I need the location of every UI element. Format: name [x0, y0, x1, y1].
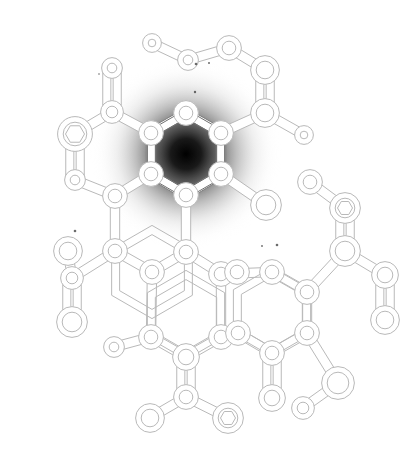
- atom-node-8: [140, 260, 165, 285]
- atom-inner-ring-icon: [231, 326, 245, 340]
- atom-node-44: [322, 367, 355, 400]
- atom-inner-ring-icon: [179, 245, 193, 259]
- atom-inner-ring-icon: [145, 265, 159, 279]
- atom-node-21: [251, 56, 280, 85]
- atom-inner-ring-icon: [144, 167, 158, 181]
- atom-inner-ring-icon: [144, 126, 158, 140]
- atom-inner-ring-icon: [179, 390, 193, 404]
- atom-node-14: [225, 260, 250, 285]
- atom-inner-ring-icon: [376, 311, 394, 329]
- atom-node-17: [295, 321, 320, 346]
- atom-inner-ring-icon: [222, 41, 236, 55]
- atom-inner-ring-icon: [256, 61, 274, 79]
- atom-node-6: [103, 184, 128, 209]
- atom-inner-ring-icon: [62, 312, 82, 332]
- atom-node-3: [174, 183, 199, 208]
- atom-node-2: [209, 162, 234, 187]
- atom-node-43: [371, 306, 400, 335]
- atom-inner-ring-icon: [335, 241, 355, 261]
- speckle-4: [276, 244, 279, 247]
- atom-inner-ring-icon: [66, 272, 78, 284]
- speckle-1: [208, 62, 210, 64]
- atom-inner-ring-icon: [108, 244, 122, 258]
- atom-node-19: [226, 321, 251, 346]
- atom-inner-ring-icon: [300, 131, 308, 139]
- molecule-figure-canvas: [0, 0, 417, 453]
- atom-node-36: [136, 404, 165, 433]
- atom-node-25: [295, 126, 314, 145]
- atom-inner-ring-icon: [300, 285, 314, 299]
- atom-node-26: [251, 190, 282, 221]
- atom-node-11: [173, 344, 200, 371]
- atom-node-1: [209, 121, 234, 146]
- atom-inner-ring-icon: [377, 267, 393, 283]
- atom-node-9: [174, 240, 199, 265]
- speckle-6: [98, 73, 100, 75]
- atom-inner-ring-icon: [265, 346, 279, 360]
- atom-node-15: [260, 260, 285, 285]
- atom-node-7: [103, 239, 128, 264]
- atom-node-28: [101, 101, 124, 124]
- speckle-2: [194, 91, 196, 93]
- atom-inner-ring-icon: [108, 189, 122, 203]
- atom-node-40: [298, 170, 323, 195]
- atom-node-16: [295, 280, 320, 305]
- atom-inner-ring-icon: [214, 167, 228, 181]
- atom-node-41: [330, 236, 361, 267]
- speckle-0: [195, 63, 198, 66]
- atom-node-0: [174, 101, 199, 126]
- atom-inner-ring-icon: [327, 372, 349, 394]
- atom-node-5: [139, 121, 164, 146]
- atom-node-34: [104, 337, 125, 358]
- atom-node-35: [174, 385, 199, 410]
- atom-node-23: [178, 50, 199, 71]
- atom-node-42: [372, 262, 399, 289]
- atom-inner-ring-icon: [148, 39, 156, 47]
- atom-inner-ring-icon: [230, 265, 244, 279]
- atom-inner-ring-icon: [303, 175, 317, 189]
- atom-inner-ring-icon: [106, 106, 118, 118]
- atom-inner-ring-icon: [256, 195, 276, 215]
- atom-node-32: [61, 267, 84, 290]
- atom-node-38: [259, 385, 286, 412]
- atom-node-45: [292, 397, 315, 420]
- atom-inner-ring-icon: [107, 63, 117, 73]
- atom-inner-ring-icon: [265, 265, 279, 279]
- atom-inner-ring-icon: [297, 402, 309, 414]
- atom-inner-ring-icon: [141, 409, 159, 427]
- atom-node-39: [330, 193, 361, 224]
- atom-node-18: [260, 341, 285, 366]
- atom-inner-ring-icon: [109, 342, 119, 352]
- atom-inner-ring-icon: [178, 349, 194, 365]
- atom-inner-ring-icon: [179, 106, 193, 120]
- atom-node-24: [143, 34, 162, 53]
- atom-inner-ring-icon: [59, 242, 77, 260]
- atom-node-29: [58, 117, 93, 152]
- atom-inner-ring-icon: [214, 126, 228, 140]
- atom-node-4: [139, 162, 164, 187]
- atom-inner-ring-icon: [70, 175, 80, 185]
- atom-node-30: [65, 170, 86, 191]
- atom-node-31: [54, 237, 83, 266]
- atom-inner-ring-icon: [179, 188, 193, 202]
- molecule-diagram: [0, 0, 417, 453]
- atom-node-10: [139, 325, 164, 350]
- atom-inner-ring-icon: [183, 55, 193, 65]
- atom-node-22: [217, 36, 242, 61]
- atom-node-27: [102, 58, 123, 79]
- speckle-3: [74, 230, 77, 233]
- atom-node-37: [213, 403, 244, 434]
- atom-inner-ring-icon: [264, 390, 280, 406]
- atom-node-20: [251, 99, 280, 128]
- atom-inner-ring-icon: [300, 326, 314, 340]
- atom-node-33: [57, 307, 88, 338]
- atom-inner-ring-icon: [256, 104, 274, 122]
- speckle-5: [261, 245, 263, 247]
- atom-inner-ring-icon: [144, 330, 158, 344]
